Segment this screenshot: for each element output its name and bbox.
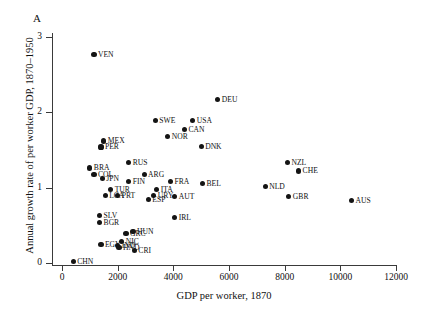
data-point-marker <box>130 229 135 234</box>
data-point-marker <box>215 97 220 102</box>
data-point-label: CHN <box>77 258 93 266</box>
data-point-label: CAN <box>188 126 204 134</box>
data-point-label: PER <box>105 143 119 151</box>
x-tick-label: 0 <box>32 273 92 283</box>
y-tick-mark <box>46 37 52 38</box>
x-tick-mark <box>396 265 397 271</box>
data-point-marker <box>126 179 131 184</box>
data-point-label: CHE <box>303 167 318 175</box>
x-tick-mark <box>173 265 174 271</box>
y-tick-mark <box>46 112 52 113</box>
x-tick-label: 8000 <box>255 273 315 283</box>
data-point-label: IRL <box>179 214 191 222</box>
data-point-label: GBR <box>293 193 309 201</box>
x-tick-label: 4000 <box>143 273 203 283</box>
data-point-marker <box>263 184 268 189</box>
x-tick-mark <box>118 265 119 271</box>
x-tick-label: 2000 <box>88 273 148 283</box>
x-tick-mark <box>229 265 230 271</box>
x-tick-label: 12000 <box>366 273 421 283</box>
data-point-marker <box>116 245 121 250</box>
data-point-label: BGR <box>104 219 120 227</box>
x-tick-mark <box>62 265 63 271</box>
y-tick-mark <box>46 188 52 189</box>
data-point-marker <box>296 168 301 173</box>
data-point-marker <box>349 198 354 203</box>
data-point-label: FRA <box>175 178 190 186</box>
data-point-marker <box>172 215 177 220</box>
data-point-marker <box>123 231 128 236</box>
x-tick-label: 10000 <box>310 273 370 283</box>
data-point-marker <box>172 194 177 199</box>
data-point-marker <box>71 259 76 264</box>
data-point-marker <box>285 160 290 165</box>
x-tick-mark <box>340 265 341 271</box>
data-point-label: NLD <box>269 183 285 191</box>
data-point-label: BEL <box>207 180 221 188</box>
data-point-marker <box>100 176 105 181</box>
data-point-label: PRT <box>122 192 135 200</box>
data-point-marker <box>168 179 173 184</box>
data-point-label: AUS <box>355 197 370 205</box>
scatter-plot: 0123 020004000600080001000012000 VENDEUS… <box>0 0 421 312</box>
data-point-label: CRI <box>138 247 151 255</box>
data-point-marker <box>91 52 96 57</box>
y-axis-spine <box>52 33 53 266</box>
data-point-marker <box>91 172 96 177</box>
data-point-marker <box>97 220 102 225</box>
x-tick-mark <box>285 265 286 271</box>
data-point-label: HUN <box>137 228 153 236</box>
data-point-label: USA <box>197 117 212 125</box>
data-point-marker <box>115 193 120 198</box>
data-point-label: ESP <box>152 196 165 204</box>
data-point-marker <box>103 193 108 198</box>
data-point-marker <box>286 194 291 199</box>
x-axis-spine <box>52 265 396 266</box>
data-point-marker <box>153 118 158 123</box>
data-point-marker <box>200 181 205 186</box>
data-point-label: VEN <box>98 51 114 59</box>
data-point-marker <box>199 144 204 149</box>
data-point-marker <box>98 242 103 247</box>
data-point-label: SWE <box>159 117 175 125</box>
data-point-marker <box>98 144 103 149</box>
data-point-label: AUT <box>179 193 195 201</box>
data-point-marker <box>190 118 195 123</box>
x-axis-title: GDP per worker, 1870 <box>52 290 396 301</box>
x-tick-label: 6000 <box>199 273 259 283</box>
data-point-marker <box>146 197 151 202</box>
data-point-label: NOR <box>172 133 188 141</box>
data-point-label: DNK <box>205 143 221 151</box>
y-tick-mark <box>46 263 52 264</box>
data-point-marker <box>87 165 92 170</box>
data-point-marker <box>97 213 102 218</box>
data-point-label: JPN <box>106 175 119 183</box>
y-axis-title: Annual growth rate of per worker GDP, 18… <box>24 21 35 271</box>
data-point-marker <box>165 134 170 139</box>
figure-panel-a: A 0123 020004000600080001000012000 VENDE… <box>0 0 421 312</box>
data-point-marker <box>132 248 137 253</box>
data-point-label: ARG <box>148 171 164 179</box>
data-point-label: RUS <box>133 159 148 167</box>
data-point-label: FIN <box>133 178 145 186</box>
data-point-label: DEU <box>222 96 238 104</box>
data-point-marker <box>126 160 131 165</box>
